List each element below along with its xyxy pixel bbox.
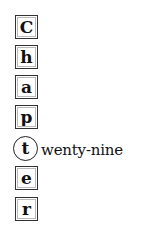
- letter-box-e: e: [15, 166, 38, 190]
- letter-box-a: a: [15, 75, 38, 99]
- letter-circle-t: t: [13, 136, 38, 161]
- letter-box-h: h: [15, 45, 38, 69]
- letter-box-p: p: [15, 105, 38, 129]
- letter-box-c: C: [15, 15, 38, 39]
- letter-box-r: r: [15, 197, 38, 221]
- chapter-number-text: wenty-nine: [41, 137, 123, 163]
